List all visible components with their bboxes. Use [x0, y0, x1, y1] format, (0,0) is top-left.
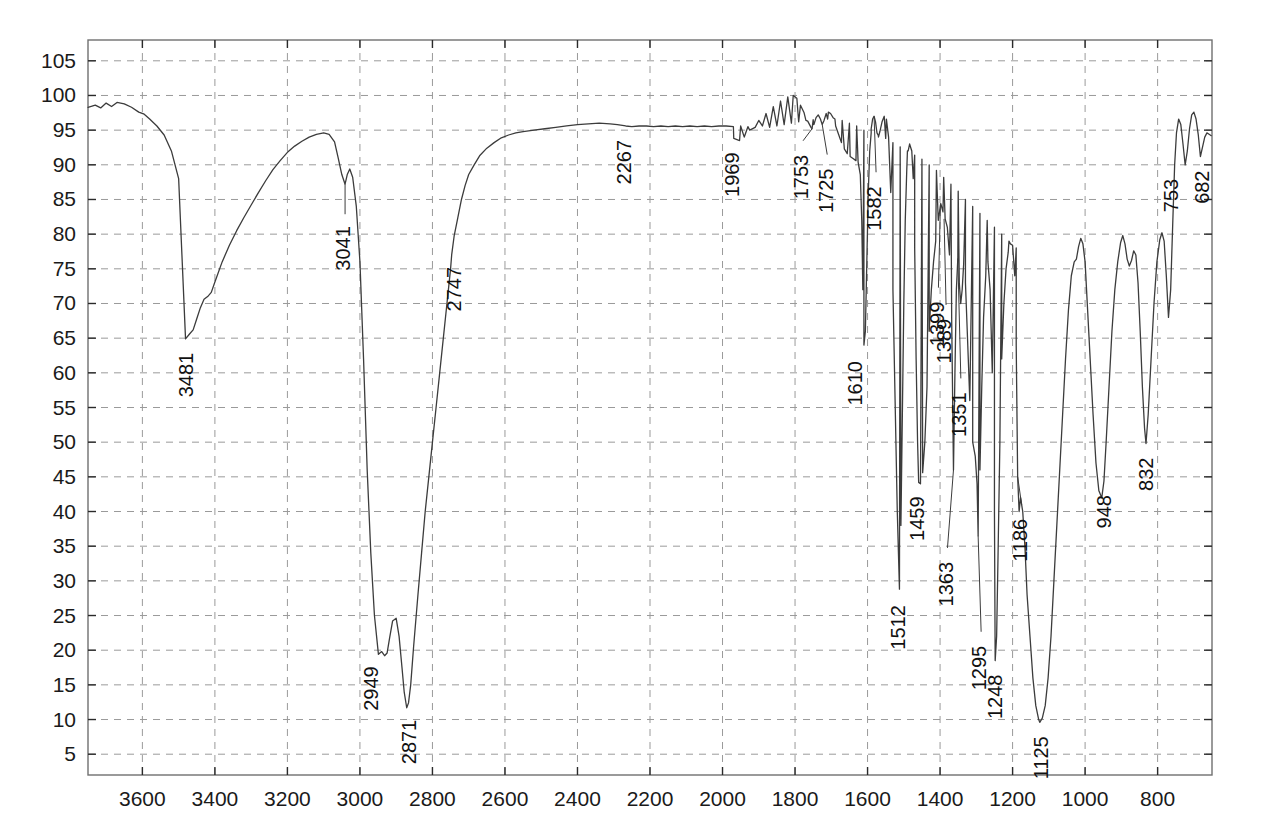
x-tick-label: 2800	[409, 787, 456, 810]
y-tick-label: 15	[53, 673, 76, 696]
y-tick-label: 55	[53, 396, 76, 419]
peak-label: 948	[1093, 495, 1115, 528]
y-tick-label: 60	[53, 361, 76, 384]
peak-label: 832	[1135, 458, 1157, 491]
peak-label: 1389	[933, 319, 955, 364]
y-tick-label: 100	[41, 83, 76, 106]
chart-background	[0, 0, 1267, 839]
x-tick-label: 1600	[844, 787, 891, 810]
peak-label: 1351	[948, 392, 970, 437]
x-tick-label: 3200	[264, 787, 311, 810]
x-tick-label: 1400	[917, 787, 964, 810]
y-tick-label: 40	[53, 500, 76, 523]
ir-spectrum-chart: 1051009590858075706560555045403530252015…	[0, 0, 1267, 839]
peak-label: 1363	[935, 562, 957, 607]
x-tick-label: 2600	[482, 787, 529, 810]
peak-label: 1725	[815, 169, 837, 214]
x-tick-label: 2400	[554, 787, 601, 810]
y-tick-label: 80	[53, 222, 76, 245]
y-tick-label: 70	[53, 291, 76, 314]
x-tick-label: 800	[1140, 787, 1175, 810]
peak-label: 682	[1191, 170, 1213, 203]
y-tick-label: 85	[53, 187, 76, 210]
y-tick-label: 30	[53, 569, 76, 592]
peak-label: 1248	[984, 675, 1006, 720]
y-tick-label: 10	[53, 708, 76, 731]
x-tick-label: 3400	[192, 787, 239, 810]
y-tick-label: 65	[53, 326, 76, 349]
peak-label: 1582	[863, 186, 885, 231]
peak-label: 3481	[175, 353, 197, 398]
y-tick-label: 25	[53, 604, 76, 627]
x-tick-label: 3000	[337, 787, 384, 810]
y-tick-label: 95	[53, 118, 76, 141]
y-tick-label: 90	[53, 153, 76, 176]
peak-label: 2871	[398, 720, 420, 765]
peak-label: 2747	[443, 267, 465, 312]
y-tick-label: 45	[53, 465, 76, 488]
y-tick-label: 75	[53, 257, 76, 280]
peak-label: 3041	[332, 226, 354, 271]
y-tick-label: 20	[53, 638, 76, 661]
x-tick-label: 1000	[1062, 787, 1109, 810]
peak-label: 1753	[790, 155, 812, 200]
peak-label: 1125	[1030, 736, 1052, 779]
x-tick-label: 2200	[627, 787, 674, 810]
x-tick-label: 1800	[772, 787, 819, 810]
peak-label: 1459	[906, 496, 928, 541]
peak-label: 1610	[844, 361, 866, 406]
x-tick-label: 3600	[119, 787, 166, 810]
peak-label: 2267	[613, 140, 635, 185]
peak-label: 2949	[360, 666, 382, 711]
x-tick-label: 1200	[989, 787, 1036, 810]
spectrum-page: 1051009590858075706560555045403530252015…	[0, 0, 1267, 839]
y-tick-label: 105	[41, 49, 76, 72]
x-axis-tick-labels: 3600340032003000280026002400220020001800…	[119, 787, 1175, 810]
peak-label: 753	[1160, 179, 1182, 212]
y-tick-label: 5	[64, 742, 76, 765]
peak-label: 1186	[1009, 519, 1031, 562]
spectrum-svg: 1051009590858075706560555045403530252015…	[0, 0, 1267, 839]
x-tick-label: 2000	[699, 787, 746, 810]
peak-label: 1512	[887, 605, 909, 650]
y-tick-label: 35	[53, 534, 76, 557]
peak-label: 1969	[721, 152, 743, 197]
y-tick-label: 50	[53, 430, 76, 453]
